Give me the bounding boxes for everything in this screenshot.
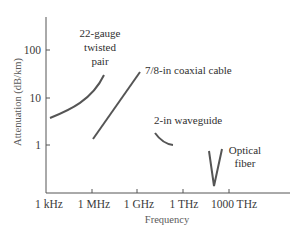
- svg-text:22-gauge: 22-gauge: [80, 27, 121, 39]
- svg-text:twisted: twisted: [84, 41, 116, 53]
- y-axis-title: Attenuation (dB/km): [12, 58, 24, 146]
- x-tick-1mhz: 1 MHz: [78, 198, 110, 210]
- y-axis: [46, 17, 50, 193]
- x-tick-1ghz: 1 GHz: [124, 198, 154, 210]
- svg-text:pair: pair: [91, 55, 108, 67]
- label-optical-fiber: Optical fiber: [229, 144, 261, 169]
- curve-waveguide: [155, 133, 173, 145]
- label-twisted-pair: 22-gauge twisted pair: [80, 27, 121, 67]
- x-tick-1thz: 1 THz: [170, 198, 199, 210]
- x-axis: [46, 189, 290, 193]
- y-tick-10: 10: [30, 92, 42, 104]
- x-axis-title: Frequency: [145, 214, 190, 225]
- svg-text:fiber: fiber: [235, 157, 256, 169]
- y-tick-1: 1: [35, 139, 41, 151]
- label-coaxial-cable: 7/8-in coaxial cable: [145, 64, 232, 76]
- svg-text:Optical: Optical: [229, 144, 261, 156]
- curve-optical-fiber: [209, 149, 222, 186]
- x-tick-1000thz: 1000 THz: [211, 198, 257, 210]
- y-tick-100: 100: [24, 44, 42, 56]
- label-waveguide: 2-in waveguide: [154, 114, 222, 126]
- curve-twisted-pair: [50, 75, 104, 118]
- attenuation-chart: 100 10 1 1 kHz 1 MHz 1 GHz 1 THz 1000 TH…: [0, 0, 290, 241]
- x-tick-1khz: 1 kHz: [35, 198, 63, 210]
